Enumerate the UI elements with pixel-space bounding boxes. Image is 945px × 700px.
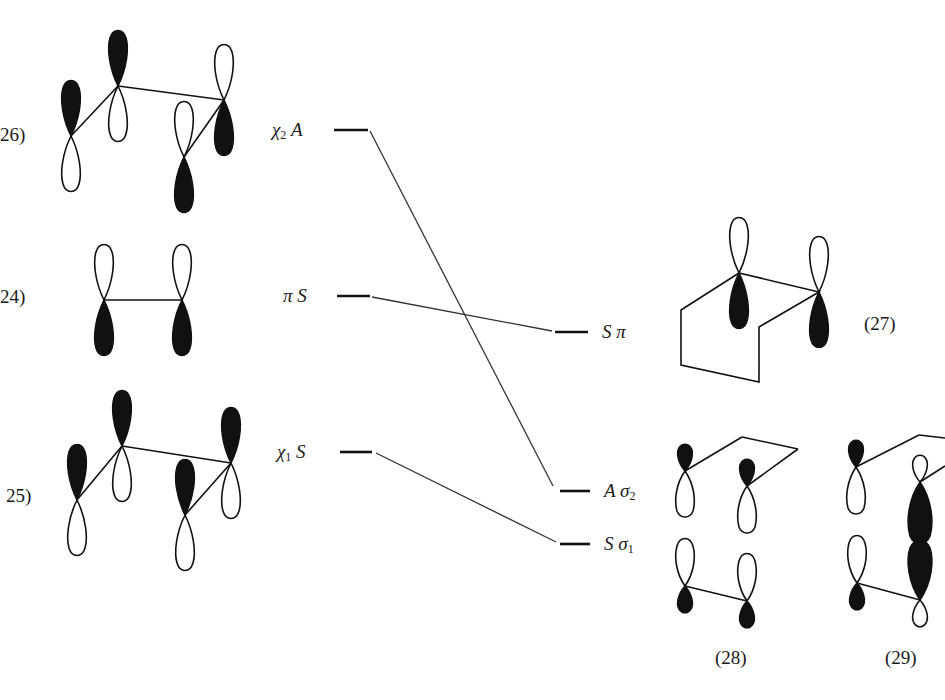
structure-29 (847, 435, 945, 627)
correlation-lines (370, 131, 556, 542)
structure-24 (95, 245, 192, 356)
level-symbol: σ (618, 533, 627, 554)
structure-25 (68, 391, 241, 571)
structure-26 (62, 31, 234, 213)
level-label-chi2-a: χ2 A (272, 119, 303, 143)
structure-label-27: (27) (864, 313, 896, 335)
level-symmetry: S (297, 285, 307, 306)
level-symbol: π (616, 321, 626, 342)
corr-chi2-sigma2 (370, 131, 553, 486)
structure-label-29: (29) (885, 647, 917, 669)
diagram-graphics (0, 0, 945, 700)
structure-label-26: 26) (0, 124, 25, 146)
level-symmetry: A (291, 119, 303, 140)
level-subscript: 2 (280, 128, 286, 142)
level-subscript: 1 (628, 542, 634, 556)
level-symmetry: A (604, 480, 615, 501)
structure-label-28: (28) (715, 647, 747, 669)
level-label-s-sigma1: S σ1 (604, 533, 634, 557)
corr-chi1-sigma1 (376, 453, 556, 542)
level-symmetry: S (602, 321, 612, 342)
level-label-chi1-s: χ1 S (277, 441, 306, 465)
level-label-a-sigma2: A σ2 (604, 480, 635, 504)
level-label-pi-s: π S (283, 285, 307, 307)
level-symbol: π (283, 285, 293, 306)
level-symmetry: S (604, 533, 614, 554)
level-symmetry: S (296, 441, 306, 462)
level-subscript: 1 (285, 450, 291, 464)
level-symbol: σ (620, 480, 629, 501)
structure-27 (681, 218, 828, 383)
level-subscript: 2 (629, 489, 635, 503)
level-label-s-pi: S π (602, 321, 626, 343)
structure-label-25: 25) (6, 485, 31, 507)
structure-label-24: 24) (0, 286, 25, 308)
correlation-diagram: 26) 24) 25) (27) (28) (29) χ2 A π S χ1 S… (0, 0, 945, 700)
corr-pi-pi (372, 297, 552, 331)
structure-28 (676, 437, 798, 628)
